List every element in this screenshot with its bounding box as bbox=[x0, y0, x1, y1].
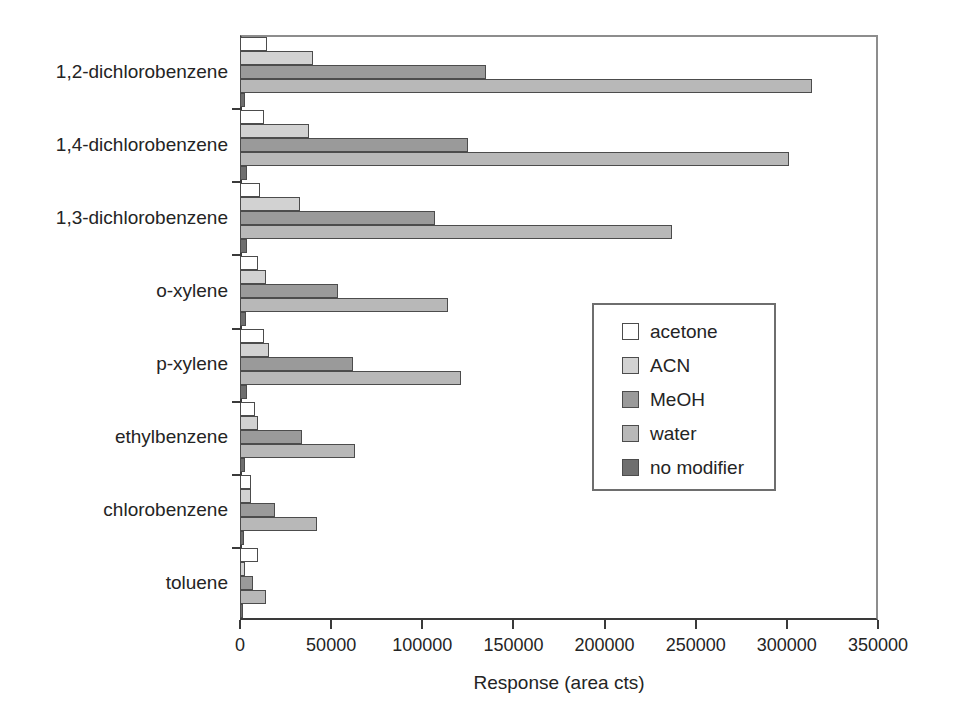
bar bbox=[240, 343, 269, 357]
bar bbox=[240, 51, 313, 65]
x-axis-tick-label: 350000 bbox=[818, 636, 938, 654]
bar bbox=[240, 489, 251, 503]
bar bbox=[240, 562, 245, 576]
bar bbox=[240, 166, 247, 180]
x-axis-tick bbox=[604, 620, 606, 629]
legend-label: ACN bbox=[650, 356, 690, 375]
bar bbox=[240, 385, 247, 399]
bar bbox=[240, 211, 435, 225]
y-axis-tick bbox=[232, 401, 241, 403]
bar bbox=[240, 458, 245, 472]
y-axis-category-label: o-xylene bbox=[156, 281, 228, 300]
y-axis-category-label: 1,3-dichlorobenzene bbox=[56, 208, 228, 227]
bar bbox=[240, 416, 258, 430]
y-axis-category-label: toluene bbox=[166, 573, 228, 592]
legend-swatch-icon bbox=[622, 391, 639, 408]
bar bbox=[240, 225, 672, 239]
x-axis-tick bbox=[239, 620, 241, 629]
legend-item: MeOH bbox=[622, 390, 705, 409]
y-axis-tick bbox=[232, 254, 241, 256]
y-axis-category-label: ethylbenzene bbox=[115, 427, 228, 446]
bar bbox=[240, 590, 266, 604]
x-axis-tick bbox=[512, 620, 514, 629]
legend: acetoneACNMeOHwaterno modifier bbox=[592, 303, 776, 491]
bar bbox=[240, 503, 275, 517]
x-axis-tick bbox=[695, 620, 697, 629]
legend-item: acetone bbox=[622, 322, 718, 341]
bar bbox=[240, 357, 353, 371]
bar bbox=[240, 312, 246, 326]
legend-item: no modifier bbox=[622, 458, 744, 477]
bar bbox=[240, 197, 300, 211]
bar bbox=[240, 65, 486, 79]
y-axis-tick bbox=[232, 328, 241, 330]
legend-swatch-icon bbox=[622, 425, 639, 442]
bar bbox=[240, 124, 309, 138]
x-axis-tick bbox=[330, 620, 332, 629]
bar bbox=[240, 576, 253, 590]
x-axis-tick bbox=[421, 620, 423, 629]
bar bbox=[240, 329, 264, 343]
bar bbox=[240, 256, 258, 270]
x-axis-title: Response (area cts) bbox=[240, 673, 878, 692]
y-axis-category-label: chlorobenzene bbox=[103, 500, 228, 519]
y-axis-category-label: 1,2-dichlorobenzene bbox=[56, 62, 228, 81]
bar bbox=[240, 548, 258, 562]
bar bbox=[240, 531, 244, 545]
bar bbox=[240, 37, 267, 51]
y-axis-category-label: p-xylene bbox=[156, 354, 228, 373]
legend-label: MeOH bbox=[650, 390, 705, 409]
legend-swatch-icon bbox=[622, 323, 639, 340]
y-axis-category-label: 1,4-dichlorobenzene bbox=[56, 135, 228, 154]
bar bbox=[240, 138, 468, 152]
bar bbox=[240, 152, 789, 166]
legend-label: no modifier bbox=[650, 458, 744, 477]
legend-label: acetone bbox=[650, 322, 718, 341]
bar bbox=[240, 298, 448, 312]
bar bbox=[240, 475, 251, 489]
bar bbox=[240, 183, 260, 197]
legend-label: water bbox=[650, 424, 696, 443]
bar bbox=[240, 444, 355, 458]
y-axis-tick bbox=[232, 547, 241, 549]
bar bbox=[240, 517, 317, 531]
x-axis-tick bbox=[786, 620, 788, 629]
bar bbox=[240, 402, 255, 416]
bar bbox=[240, 371, 461, 385]
bar-chart: 1,2-dichlorobenzene1,4-dichlorobenzene1,… bbox=[0, 0, 955, 717]
legend-swatch-icon bbox=[622, 357, 639, 374]
bar bbox=[240, 110, 264, 124]
plot-frame bbox=[240, 35, 878, 620]
bar bbox=[240, 79, 812, 93]
bar bbox=[240, 270, 266, 284]
bar bbox=[240, 430, 302, 444]
legend-swatch-icon bbox=[622, 459, 639, 476]
legend-item: water bbox=[622, 424, 696, 443]
bar bbox=[240, 93, 245, 107]
y-axis-tick bbox=[232, 181, 241, 183]
bar bbox=[240, 604, 243, 618]
y-axis-tick bbox=[232, 108, 241, 110]
bar bbox=[240, 239, 247, 253]
legend-item: ACN bbox=[622, 356, 690, 375]
y-axis-tick bbox=[232, 474, 241, 476]
x-axis-tick bbox=[877, 620, 879, 629]
bar bbox=[240, 284, 338, 298]
